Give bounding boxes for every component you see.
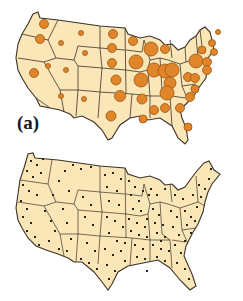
panel-b-dot-map: (b): [0, 150, 243, 301]
panel-a-proportional-symbol-map: (a): [0, 0, 243, 150]
us-outline: [16, 153, 220, 290]
us-map-b: [0, 150, 243, 301]
panel-a-label: (a): [17, 112, 39, 134]
